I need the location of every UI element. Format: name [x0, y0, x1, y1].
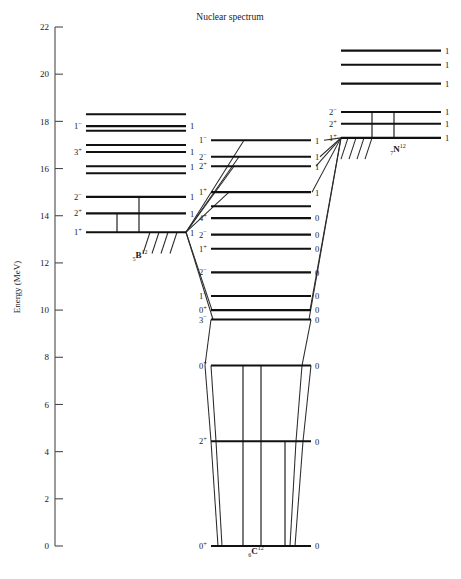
spin-parity-label: 0+ — [199, 540, 207, 551]
isospin-label: 1 — [190, 121, 194, 131]
spin-parity-label: 4+ — [199, 212, 207, 223]
axis-tick-label: 0 — [45, 541, 50, 551]
nucleus-label-n12: 7N12 — [390, 143, 406, 156]
axis-tick-label: 4 — [45, 447, 50, 457]
spin-parity-label: 2+ — [74, 207, 82, 218]
spin-parity-label: 2− — [74, 191, 82, 202]
isospin-label: 0 — [315, 268, 319, 278]
diagram-canvas: Nuclear spectrum 0246810121416182022 Ene… — [0, 0, 461, 579]
spin-parity-label: 1+ — [329, 132, 337, 143]
spin-parity-label: 2− — [199, 228, 207, 239]
isospin-label: 0 — [315, 541, 319, 551]
spin-parity-label: 2− — [199, 266, 207, 277]
spin-parity-label: 0+ — [199, 359, 207, 370]
analogue-state-link — [357, 138, 364, 159]
axis-tick-label: 12 — [40, 258, 49, 268]
isospin-label: 1 — [190, 162, 194, 172]
analogue-state-link — [365, 138, 372, 159]
isospin-label: 1 — [190, 209, 194, 219]
isospin-label: 0 — [315, 230, 319, 240]
analogue-state-link — [296, 366, 302, 442]
isospin-label: 1 — [190, 228, 194, 238]
level-group: 1−13+112−12+11+11−12−12+11+14+02−01+02−0… — [74, 46, 449, 551]
isospin-label: 1 — [445, 119, 449, 129]
axis-tick-label: 20 — [40, 69, 50, 79]
analogue-state-link — [302, 320, 311, 366]
spin-parity-label: 1− — [74, 120, 82, 131]
axis-tick-label: 22 — [40, 22, 49, 32]
spin-parity-label: 1+ — [199, 243, 207, 254]
axis-tick-label: 10 — [40, 305, 50, 315]
isospin-label: 0 — [315, 213, 319, 223]
isospin-label: 1 — [445, 60, 449, 70]
isospin-label: 0 — [315, 437, 319, 447]
isospin-label: 1 — [315, 162, 319, 172]
isospin-label: 1 — [445, 46, 449, 56]
nuclear-level-diagram: Nuclear spectrum 0246810121416182022 Ene… — [0, 0, 461, 579]
axis-tick-label: 6 — [45, 400, 50, 410]
analogue-state-link — [309, 138, 341, 320]
axis-title: Energy (MeV) — [12, 261, 22, 314]
analogue-state-link — [170, 232, 177, 253]
axis-tick-label: 2 — [45, 494, 50, 504]
spin-parity-label: 1+ — [74, 226, 82, 237]
analogue-state-link — [349, 138, 356, 159]
analogue-state-link — [152, 232, 159, 253]
spin-parity-label: 3− — [199, 313, 207, 324]
nucleus-label-b12: 5B12 — [132, 249, 147, 262]
spin-parity-label: 2+ — [199, 435, 207, 446]
axis-tick-group: 0246810121416182022 — [40, 22, 63, 551]
page-title: Nuclear spectrum — [196, 12, 264, 22]
analogue-state-link — [295, 441, 303, 546]
analogue-state-link — [205, 366, 211, 442]
spin-parity-label: 1− — [199, 290, 207, 301]
isospin-label: 1 — [445, 79, 449, 89]
analogue-state-link — [211, 366, 216, 442]
isospin-label: 1 — [445, 107, 449, 117]
isospin-label: 0 — [315, 315, 319, 325]
transition-link-group — [117, 112, 394, 546]
isospin-label: 1 — [315, 136, 319, 146]
analogue-state-link — [290, 441, 296, 546]
analogue-state-link — [161, 232, 168, 253]
spin-parity-label: 1− — [199, 134, 207, 145]
isospin-label: 0 — [315, 244, 319, 254]
spin-parity-label: 2− — [329, 106, 337, 117]
isospin-label: 0 — [315, 291, 319, 301]
isospin-label: 1 — [190, 192, 194, 202]
spin-parity-label: 2+ — [199, 160, 207, 171]
axis-tick-label: 8 — [45, 352, 50, 362]
nucleus-label-c12: 6C12 — [248, 545, 264, 558]
isospin-label: 1 — [445, 133, 449, 143]
analogue-state-link — [341, 138, 348, 159]
axis-tick-label: 18 — [40, 117, 50, 127]
isospin-label: 1 — [190, 147, 194, 157]
spin-parity-label: 2+ — [329, 118, 337, 129]
spin-parity-label: 1+ — [199, 186, 207, 197]
isospin-label: 1 — [315, 188, 319, 198]
axis-tick-label: 14 — [40, 211, 50, 221]
axis-tick-label: 16 — [40, 164, 50, 174]
spin-parity-label: 3+ — [74, 146, 82, 157]
analogue-state-link — [303, 366, 311, 442]
isospin-label: 0 — [315, 361, 319, 371]
